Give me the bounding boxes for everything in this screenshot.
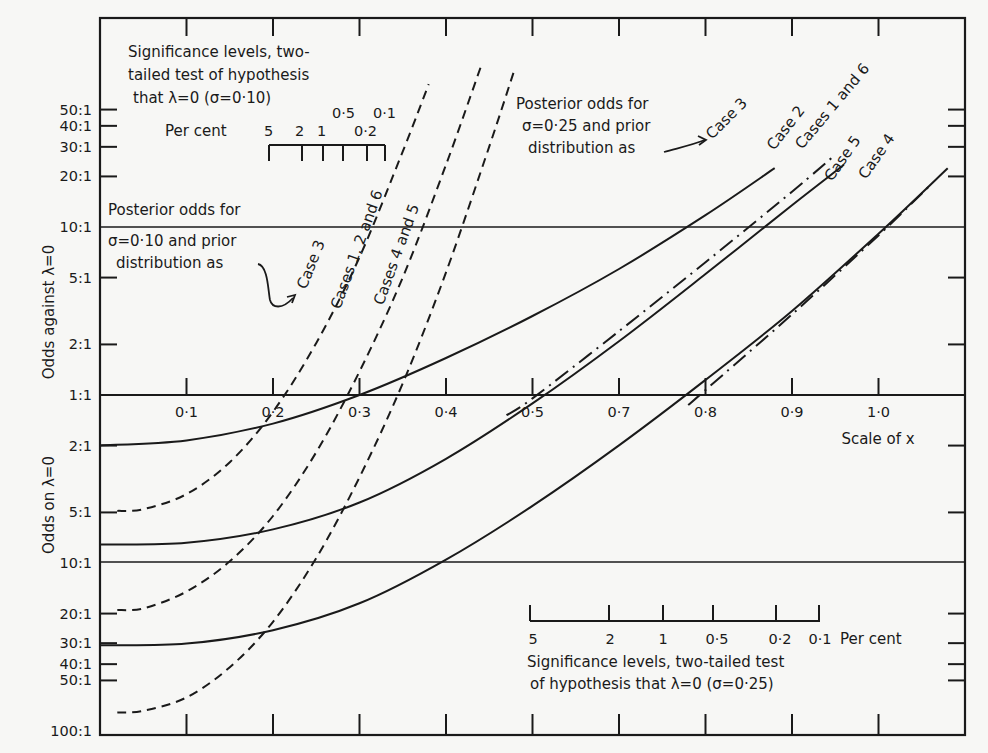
y-tick-label-against: 40:1: [59, 118, 92, 134]
sig025-value: 1: [658, 631, 667, 647]
post025-line2: σ=0·25 and prior: [522, 117, 651, 135]
y-tick-label-on: 40:1: [59, 656, 92, 672]
sig025-values: 5210·50·20·1: [528, 631, 831, 647]
x-tick-label: 0·3: [348, 404, 371, 420]
x-tick-label: 0·2: [261, 404, 284, 420]
y-tick-label-on: 2:1: [69, 438, 92, 454]
y-tick-label-on: 30:1: [59, 635, 92, 651]
y-tick-label-on: 50:1: [59, 672, 92, 688]
sig010-val-5: 5: [264, 123, 273, 139]
curves: [100, 67, 948, 712]
label-cases16-solid: Cases 1 and 6: [791, 60, 873, 153]
y-tick-label-against: 5:1: [69, 270, 92, 286]
sig010-val-0-5: 0·5: [332, 105, 355, 121]
post010-line1: Posterior odds for: [108, 201, 241, 219]
y-axis-title-on: Odds on λ=0: [40, 456, 58, 554]
post025-arrow: [664, 140, 705, 152]
sig010-val-0-2: 0·2: [354, 123, 377, 139]
x-tick-label: 1·0: [867, 404, 890, 420]
y-tick-label-against: 30:1: [59, 139, 92, 155]
y-tick-label-on: 10:1: [59, 555, 92, 571]
label-case3-dashed: Case 3: [293, 237, 329, 291]
y-tick-label-against: 10:1: [59, 219, 92, 235]
sig025-value: 2: [605, 631, 614, 647]
post010-arrow: [258, 264, 293, 307]
sig010-title-line2: tailed test of hypothesis: [128, 66, 309, 84]
post025-line3: distribution as: [528, 139, 635, 157]
y-tick-label-against: 1:1: [69, 387, 92, 403]
sig025-value: 0·1: [808, 631, 831, 647]
post010-line3: distribution as: [116, 254, 223, 272]
sig025-value: 5: [528, 631, 537, 647]
curve-cases-1-and-6-sigma-025: [100, 165, 844, 545]
post010-line2: σ=0·10 and prior: [108, 232, 237, 250]
label-case5-dashdot: Case 5: [821, 132, 865, 184]
sig010-title-line3: that λ=0 (σ=0·10): [133, 89, 271, 107]
y-tick-label-on: 5:1: [69, 504, 92, 520]
x-tick-labels: 0·10·20·30·40·50·70·80·91·0: [175, 404, 890, 420]
curve-cases-1-2-and-6-sigma-01: [117, 67, 480, 610]
x-axis-title: Scale of x: [841, 430, 914, 448]
label-case3-solid: Case 3: [702, 94, 751, 143]
posterior-odds-chart: 50:140:130:120:110:15:12:11:12:15:110:12…: [0, 0, 988, 753]
x-tick-label: 0·8: [694, 404, 717, 420]
y-tick-labels: 50:140:130:120:110:15:12:11:12:15:110:12…: [50, 102, 92, 739]
y-tick-label-against: 50:1: [59, 102, 92, 118]
post025-line1: Posterior odds for: [516, 95, 649, 113]
sig010-val-2: 2: [295, 123, 304, 139]
x-tick-label: 0·5: [521, 404, 544, 420]
sig010-val-0-1: 0·1: [373, 105, 396, 121]
y-tick-label-on: 100:1: [50, 723, 92, 739]
x-tick-label: 0·1: [175, 404, 198, 420]
sig025-scale-bar: [530, 605, 820, 621]
sig010-scale-bar: [269, 145, 385, 161]
y-tick-label-against: 20:1: [59, 168, 92, 184]
sig025-title-line2: of hypothesis that λ=0 (σ=0·25): [530, 675, 774, 693]
sig025-value: 0·2: [768, 631, 791, 647]
x-tick-label: 0·7: [607, 404, 630, 420]
sig025-title-line1: Significance levels, two-tailed test: [527, 653, 784, 671]
y-tick-label-against: 2:1: [69, 336, 92, 352]
y-axis-title-against: Odds against λ=0: [40, 245, 58, 379]
sig025-percent-label: Per cent: [840, 630, 902, 648]
sig025-value: 0·5: [705, 631, 728, 647]
curve-cases-4-and-5-sigma-01: [117, 67, 515, 712]
sig010-percent-label: Per cent: [165, 122, 227, 140]
y-tick-label-on: 20:1: [59, 606, 92, 622]
curve-case-2-sigma-025: [507, 155, 836, 415]
sig010-val-1: 1: [317, 123, 326, 139]
label-case4-solid: Case 4: [855, 130, 899, 182]
x-tick-label: 0·9: [780, 404, 803, 420]
x-tick-label: 0·4: [434, 404, 457, 420]
sig010-title-line1: Significance levels, two-: [128, 43, 310, 61]
